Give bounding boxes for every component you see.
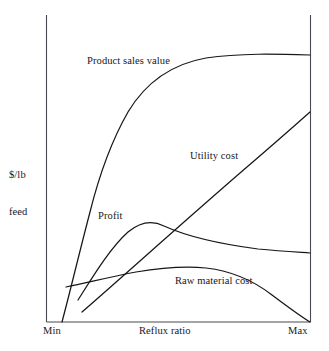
x-axis-min-tick-label: Min [43, 325, 61, 337]
x-axis-max-tick-label: Max [288, 325, 308, 337]
chart-plot-area [0, 0, 329, 351]
curve-label-utility-cost: Utility cost [190, 150, 238, 162]
reflux-ratio-economics-chart: $/lb feed Min Reflux ratio Max Product s… [0, 0, 329, 351]
curve-label-raw-material-cost: Raw material cost [175, 275, 253, 287]
curve-label-profit: Profit [98, 210, 123, 222]
y-axis-label-line1: $/lb [9, 169, 27, 181]
y-axis-label: $/lb feed [9, 144, 27, 243]
y-axis-label-line2: feed [9, 206, 27, 218]
x-axis-label: Reflux ratio [139, 325, 191, 337]
curve-label-product-sales-value: Product sales value [87, 55, 170, 67]
curve-profit [78, 223, 310, 300]
